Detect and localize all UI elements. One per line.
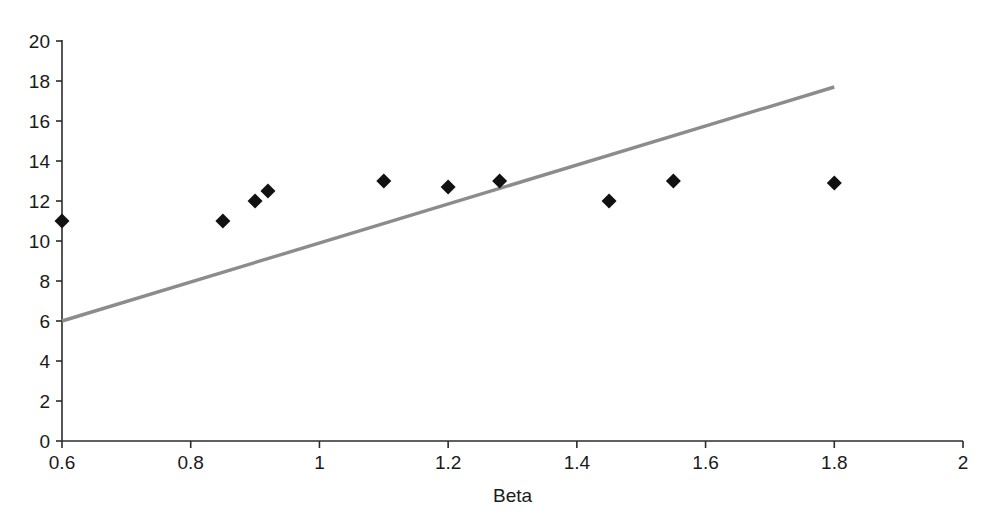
x-axis-title: Beta	[493, 485, 533, 506]
data-point-marker	[215, 214, 230, 229]
x-tick-label: 1	[314, 452, 325, 473]
data-point-marker	[376, 174, 391, 189]
y-tick-label: 20	[29, 31, 50, 52]
data-point-marker	[602, 194, 617, 209]
x-tick-label: 0.6	[49, 452, 75, 473]
x-tick-label: 1.2	[435, 452, 461, 473]
y-tick-label: 0	[39, 431, 50, 452]
y-tick-label: 6	[39, 311, 50, 332]
scatter-chart: 024681012141618200.60.811.21.41.61.82Bet…	[0, 0, 996, 529]
data-point-marker	[248, 194, 263, 209]
data-point-marker	[55, 214, 70, 229]
y-tick-label: 14	[29, 151, 51, 172]
plot-area: 024681012141618200.60.811.21.41.61.82Bet…	[0, 0, 996, 529]
x-tick-label: 2	[958, 452, 969, 473]
y-tick-label: 2	[39, 391, 50, 412]
y-tick-label: 4	[39, 351, 50, 372]
data-point-marker	[666, 174, 681, 189]
data-point-marker	[260, 184, 275, 199]
y-tick-label: 10	[29, 231, 50, 252]
x-tick-label: 1.8	[821, 452, 847, 473]
x-tick-label: 1.6	[692, 452, 718, 473]
y-tick-label: 12	[29, 191, 50, 212]
data-point-marker	[441, 180, 456, 195]
data-point-marker	[827, 176, 842, 191]
trend-line	[62, 87, 834, 321]
y-tick-label: 8	[39, 271, 50, 292]
y-tick-label: 18	[29, 71, 50, 92]
x-tick-label: 1.4	[564, 452, 591, 473]
y-tick-label: 16	[29, 111, 50, 132]
x-tick-label: 0.8	[178, 452, 204, 473]
